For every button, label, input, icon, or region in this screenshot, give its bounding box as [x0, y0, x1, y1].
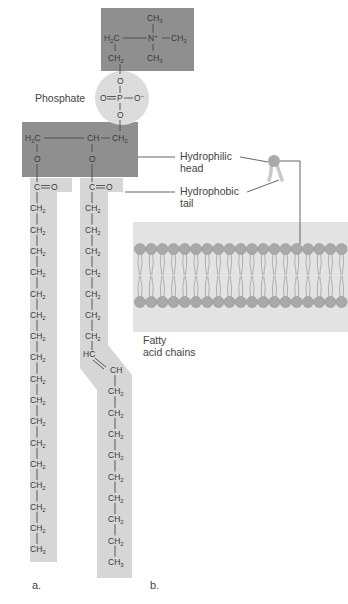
panel-label-a: a.: [32, 579, 41, 591]
svg-text:O: O: [51, 182, 58, 192]
svg-text:C: C: [89, 182, 95, 192]
svg-text:O: O: [100, 93, 107, 103]
phospholipid-icon: [268, 155, 282, 180]
svg-text:O: O: [117, 110, 124, 120]
hydrophobic-label-1: Hydrophobic: [180, 185, 239, 197]
phospholipid-figure: CH3 H2C N+ CH3 CH3 CH2 O O P O− O Phosph…: [0, 0, 348, 604]
fatty-label-1: Fatty: [143, 334, 167, 346]
chain-b-background: [80, 178, 132, 578]
hydrophobic-label-2: tail: [180, 197, 193, 209]
hydrophilic-callout: Hydrophilic head: [138, 150, 268, 174]
hydrophobic-callout: Hydrophobic tail: [125, 180, 279, 209]
panel-label-b: b.: [150, 579, 159, 591]
hydrophilic-label-2: head: [180, 162, 204, 174]
svg-text:O: O: [34, 154, 41, 164]
phosphate-label: Phosphate: [35, 92, 85, 104]
svg-text:CH: CH: [110, 365, 122, 375]
svg-text:O: O: [89, 154, 96, 164]
svg-text:C: C: [34, 182, 40, 192]
hydrophilic-label-1: Hydrophilic: [180, 150, 232, 162]
fatty-acid-callout: Fatty acid chains: [143, 334, 196, 358]
bilayer-background: [133, 222, 348, 332]
glycerol-box: [22, 122, 138, 177]
fatty-label-2: acid chains: [143, 346, 196, 358]
svg-text:O: O: [117, 76, 124, 86]
svg-text:CH: CH: [87, 133, 99, 143]
svg-text:O: O: [106, 182, 113, 192]
svg-text:HC: HC: [83, 349, 95, 359]
svg-text:P: P: [117, 93, 123, 103]
